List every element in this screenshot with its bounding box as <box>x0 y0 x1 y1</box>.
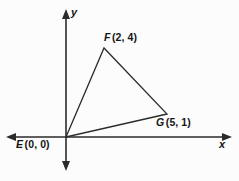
x-axis-label: x <box>219 139 225 150</box>
coordinate-plane-figure: F(2, 4) G(5, 1) E(0, 0) y x <box>0 0 239 181</box>
y-axis-down-arrow-icon <box>62 161 70 171</box>
point-name-g: G <box>156 116 166 128</box>
point-coords-f: (2, 4) <box>112 31 137 43</box>
point-label-g: G(5, 1) <box>156 117 191 128</box>
x-axis-left-arrow-icon <box>6 133 16 141</box>
point-coords-e: (0, 0) <box>25 138 50 150</box>
point-label-e: E(0, 0) <box>16 139 50 150</box>
point-label-f: F(2, 4) <box>104 32 137 43</box>
point-coords-g: (5, 1) <box>166 116 191 128</box>
point-name-e: E <box>16 138 25 150</box>
point-name-f: F <box>104 31 112 43</box>
figure-canvas <box>0 0 239 181</box>
y-axis-up-arrow-icon <box>62 9 70 19</box>
y-axis-label: y <box>71 7 77 18</box>
triangle-efg <box>66 48 167 137</box>
